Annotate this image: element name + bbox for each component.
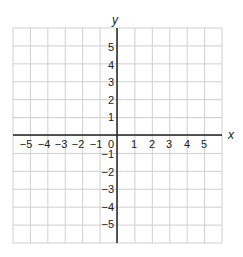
y-tick: 1 bbox=[108, 111, 114, 123]
x-tick: 5 bbox=[201, 138, 207, 150]
y-tick: 5 bbox=[108, 41, 114, 53]
y-tick: 2 bbox=[108, 94, 114, 106]
x-tick: 2 bbox=[149, 138, 155, 150]
x-tick: 1 bbox=[131, 138, 137, 150]
x-tick: −4 bbox=[38, 138, 51, 150]
x-tick: −2 bbox=[72, 138, 85, 150]
x-tick: −5 bbox=[20, 138, 33, 150]
x-tick: 3 bbox=[166, 138, 172, 150]
x-tick: −3 bbox=[55, 138, 68, 150]
x-tick: −1 bbox=[90, 138, 103, 150]
y-tick: 4 bbox=[108, 59, 114, 71]
coordinate-plane: x y −5 −4 −3 −2 −1 0 1 2 3 4 5 5 4 3 2 1… bbox=[0, 0, 243, 257]
y-tick: −2 bbox=[101, 166, 114, 178]
x-axis-label: x bbox=[227, 128, 235, 142]
y-axis-label: y bbox=[111, 13, 119, 27]
y-tick: −1 bbox=[101, 148, 114, 160]
y-tick: 3 bbox=[108, 76, 114, 88]
y-tick: −3 bbox=[101, 183, 114, 195]
x-tick: 4 bbox=[184, 138, 190, 150]
y-tick: −4 bbox=[101, 201, 114, 213]
y-tick: −5 bbox=[101, 218, 114, 230]
